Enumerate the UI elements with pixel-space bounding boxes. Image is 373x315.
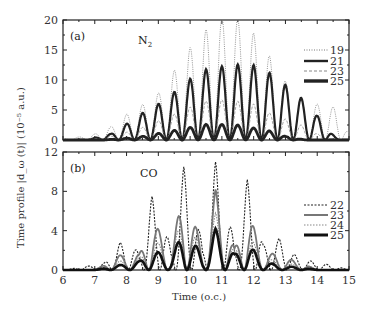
panel-a-legend: 19 21 23 25 <box>304 44 344 88</box>
svg-text:5: 5 <box>51 104 58 117</box>
svg-text:20: 20 <box>44 14 58 27</box>
svg-text:7: 7 <box>91 274 98 287</box>
series-24-line <box>63 213 349 270</box>
panel-b-molecule: CO <box>140 167 157 180</box>
series-23-line <box>63 189 349 270</box>
svg-text:15: 15 <box>44 44 58 57</box>
panel-a-label: (a) <box>70 30 85 43</box>
series-21-line <box>63 64 349 140</box>
svg-text:25: 25 <box>330 75 344 88</box>
svg-text:15: 15 <box>342 274 356 287</box>
svg-text:8: 8 <box>123 274 130 287</box>
svg-text:6: 6 <box>60 274 67 287</box>
svg-text:12: 12 <box>247 274 261 287</box>
svg-text:25: 25 <box>330 229 344 242</box>
svg-text:12: 12 <box>44 146 58 159</box>
svg-text:4: 4 <box>51 225 58 238</box>
svg-text:0: 0 <box>51 264 58 277</box>
chart-figure: 05101520 048126789101112131415 (a) N2 (b… <box>0 0 373 315</box>
panel-b-label: (b) <box>70 162 86 175</box>
svg-text:13: 13 <box>278 274 292 287</box>
svg-text:9: 9 <box>155 274 162 287</box>
panel-b-frame <box>63 152 349 270</box>
panel-a-molecule: N2 <box>138 34 152 49</box>
svg-text:14: 14 <box>310 274 324 287</box>
svg-text:10: 10 <box>44 74 58 87</box>
svg-text:10: 10 <box>183 274 197 287</box>
svg-text:11: 11 <box>215 274 229 287</box>
svg-text:8: 8 <box>51 185 58 198</box>
y-axis-title: Time profile |d_ω (t)| (10⁻⁵ a.u.) <box>15 87 27 248</box>
x-axis-title: Time (o.c.) <box>172 291 226 302</box>
panel-b-legend: 22 23 24 25 <box>304 199 344 242</box>
